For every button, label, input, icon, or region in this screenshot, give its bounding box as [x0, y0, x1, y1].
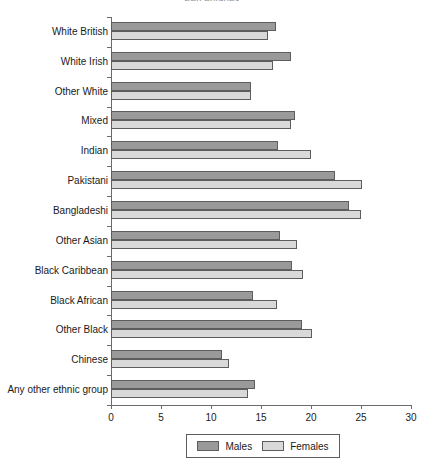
category-label: Black Caribbean	[0, 265, 108, 276]
bar-females	[111, 389, 248, 398]
bar-males	[111, 52, 291, 61]
x-axis-tick-label: 10	[205, 412, 216, 423]
bar-males	[111, 82, 251, 91]
bar-females	[111, 359, 229, 368]
x-axis-tick	[211, 405, 212, 409]
bar-males	[111, 380, 255, 389]
category-label: Black African	[0, 295, 108, 306]
bar-females	[111, 210, 361, 219]
x-axis-tick-label: 30	[405, 412, 416, 423]
bar-males	[111, 261, 292, 270]
y-axis-tick	[107, 286, 111, 287]
y-axis-tick	[107, 345, 111, 346]
category-label: Pakistani	[0, 175, 108, 186]
y-axis-tick	[107, 47, 111, 48]
chart-title: Percentages	[0, 0, 424, 1]
bar-females	[111, 31, 268, 40]
bar-males	[111, 350, 222, 359]
bar-females	[111, 300, 277, 309]
x-axis-tick	[261, 405, 262, 409]
category-label: Other Black	[0, 324, 108, 335]
legend-swatch-males-icon	[197, 441, 219, 451]
legend-label-females: Females	[290, 441, 328, 452]
y-axis-tick	[107, 315, 111, 316]
category-label: White British	[0, 26, 108, 37]
x-axis-tick-label: 5	[158, 412, 164, 423]
bar-females	[111, 180, 362, 189]
legend-label-males: Males	[225, 441, 252, 452]
x-axis-tick	[311, 405, 312, 409]
category-label: Chinese	[0, 354, 108, 365]
y-axis-tick	[107, 375, 111, 376]
legend-item-females: Females	[262, 441, 328, 452]
y-axis-tick	[107, 405, 111, 406]
bar-males	[111, 22, 276, 31]
category-label: Other White	[0, 86, 108, 97]
bar-chart: Percentages 051015202530White BritishWhi…	[0, 0, 424, 461]
category-label: Mixed	[0, 115, 108, 126]
y-axis-tick	[107, 256, 111, 257]
bar-females	[111, 120, 291, 129]
chart-legend: Males Females	[186, 434, 340, 458]
bar-males	[111, 201, 349, 210]
category-label: White Irish	[0, 56, 108, 67]
x-axis-tick	[111, 405, 112, 409]
x-axis-tick-label: 15	[255, 412, 266, 423]
x-axis-tick-label: 20	[305, 412, 316, 423]
y-axis-tick	[107, 136, 111, 137]
x-axis-tick-label: 0	[108, 412, 114, 423]
x-axis-tick	[361, 405, 362, 409]
y-axis-tick	[107, 107, 111, 108]
bar-males	[111, 231, 280, 240]
bar-males	[111, 291, 253, 300]
y-axis-tick	[107, 226, 111, 227]
y-axis-tick	[107, 166, 111, 167]
bar-females	[111, 240, 297, 249]
legend-swatch-females-icon	[262, 441, 284, 451]
y-axis-tick	[107, 77, 111, 78]
y-axis-tick	[107, 196, 111, 197]
category-label: Bangladeshi	[0, 205, 108, 216]
bar-females	[111, 270, 303, 279]
x-axis-tick	[411, 405, 412, 409]
y-axis-tick	[107, 17, 111, 18]
bar-males	[111, 171, 335, 180]
bar-females	[111, 329, 312, 338]
category-label: Other Asian	[0, 235, 108, 246]
bar-males	[111, 320, 302, 329]
category-label: Indian	[0, 145, 108, 156]
x-axis-tick	[161, 405, 162, 409]
bar-males	[111, 141, 278, 150]
bar-males	[111, 111, 295, 120]
x-axis-tick-label: 25	[355, 412, 366, 423]
bar-females	[111, 150, 311, 159]
category-label: Any other ethnic group	[0, 384, 108, 395]
bar-females	[111, 61, 273, 70]
plot-area: 051015202530White BritishWhite IrishOthe…	[111, 17, 411, 405]
bar-females	[111, 91, 251, 100]
legend-item-males: Males	[197, 441, 252, 452]
